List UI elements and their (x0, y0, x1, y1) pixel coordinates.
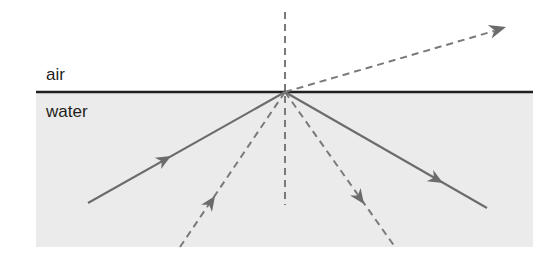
diagram-canvas: air water (0, 0, 541, 256)
refracted-ray (285, 20, 508, 92)
refracted-ray-arrowhead (488, 20, 508, 38)
air-label: air (46, 65, 65, 84)
water-label: water (45, 102, 88, 121)
refraction-diagram: air water (0, 0, 541, 256)
